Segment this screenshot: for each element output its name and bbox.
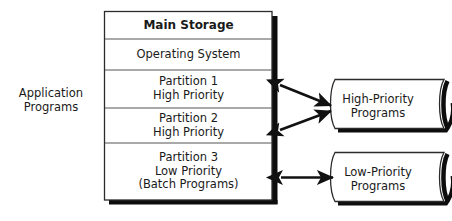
- main-storage-row-partition-1: Partition 1 High Priority: [105, 70, 272, 108]
- high-priority-programs-label-line2: Programs: [335, 107, 421, 121]
- application-programs-label: Application Programs: [2, 87, 100, 114]
- row-partition-3-line3: (Batch Programs): [138, 178, 238, 192]
- low-priority-programs-label: Low-Priority Programs: [335, 166, 421, 194]
- main-storage-row-partition-2: Partition 2 High Priority: [105, 108, 272, 143]
- connector-partition-2-to-high-priority: [280, 111, 331, 130]
- main-storage-title-text: Main Storage: [143, 19, 233, 33]
- application-programs-label-line1: Application: [19, 86, 83, 100]
- high-priority-programs-label-line1: High-Priority: [335, 93, 421, 107]
- low-priority-programs-label-line2: Programs: [335, 180, 421, 194]
- row-partition-1-line1: Partition 1: [159, 75, 218, 89]
- row-partition-1-line2: High Priority: [153, 89, 224, 103]
- high-priority-programs-label: High-Priority Programs: [335, 93, 421, 121]
- memory-partition-diagram: Application Programs Main Storage Operat…: [0, 0, 452, 221]
- connector-partition-1-to-high-priority: [280, 85, 331, 106]
- main-storage-row-partition-3: Partition 3 Low Priority (Batch Programs…: [105, 143, 272, 200]
- low-priority-programs-label-line1: Low-Priority: [335, 166, 421, 180]
- main-storage-row-operating-system: Operating System: [105, 39, 272, 70]
- main-storage-title: Main Storage: [105, 12, 272, 39]
- row-partition-3-line2: Low Priority: [155, 165, 222, 179]
- application-programs-label-line2: Programs: [24, 100, 79, 114]
- row-partition-2-line2: High Priority: [153, 126, 224, 140]
- row-partition-2-line1: Partition 2: [159, 112, 218, 126]
- row-operating-system-line1: Operating System: [136, 48, 240, 62]
- row-partition-3-line1: Partition 3: [159, 151, 218, 165]
